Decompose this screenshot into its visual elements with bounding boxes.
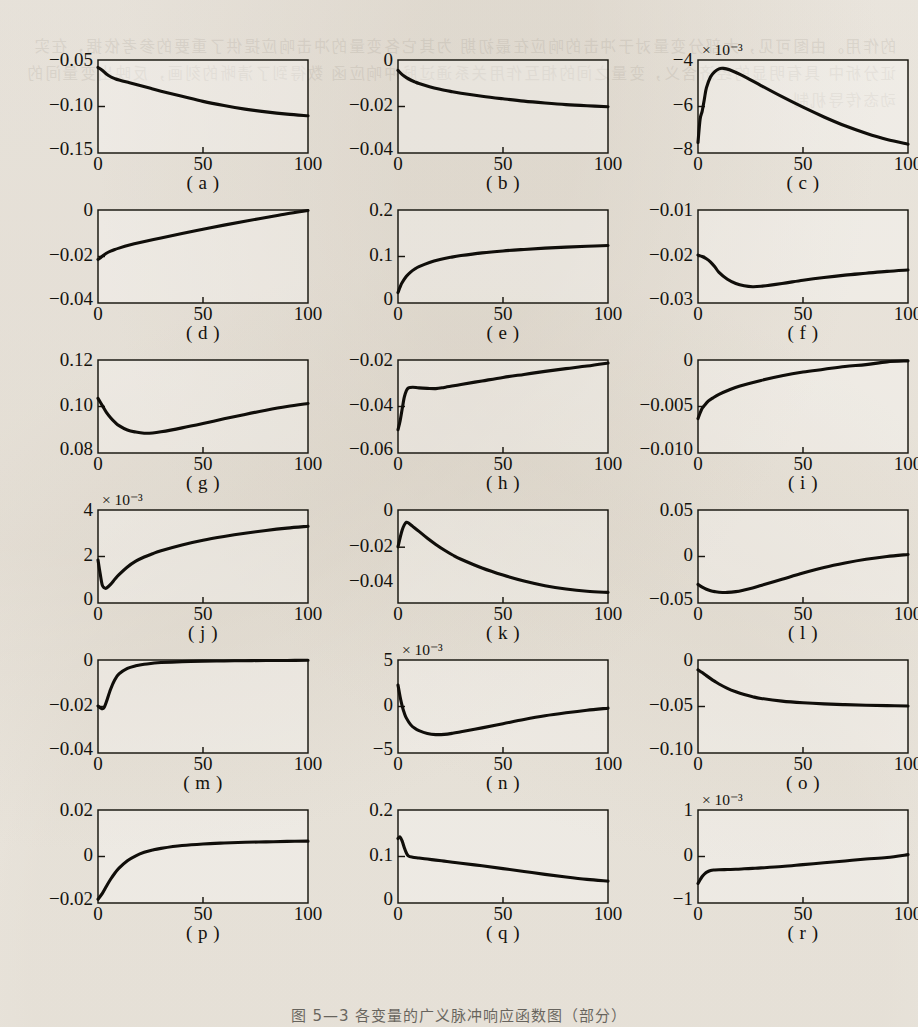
x-tick-label: 100 xyxy=(894,153,918,174)
x-tick-label: 100 xyxy=(594,603,623,624)
y-tick-label: −0.15 xyxy=(49,138,93,159)
y-tick-label: −0.04 xyxy=(49,738,93,759)
chart-panel-e: 0.20.10050100( e ) xyxy=(340,192,618,342)
axes-frame xyxy=(98,660,308,753)
x-tick-label: 0 xyxy=(693,603,703,624)
x-tick-label: 50 xyxy=(794,453,813,474)
chart-svg-g: 0.120.100.08050100( g ) xyxy=(40,342,318,492)
axes-frame xyxy=(398,360,608,453)
x-tick-label: 100 xyxy=(894,303,918,324)
x-tick-label: 0 xyxy=(93,603,103,624)
axes-frame xyxy=(698,360,908,453)
y-tick-label: −6 xyxy=(673,94,693,115)
chart-panel-a: −0.05−0.10−0.15050100( a ) xyxy=(40,42,318,192)
x-tick-label: 100 xyxy=(894,903,918,924)
panel-caption-n: ( n ) xyxy=(486,772,520,794)
x-tick-label: 50 xyxy=(494,453,513,474)
x-tick-label: 0 xyxy=(393,753,403,774)
axes-frame xyxy=(98,810,308,903)
chart-panel-j: × 10⁻³420050100( j ) xyxy=(40,492,318,642)
y-tick-label: 0 xyxy=(684,544,694,565)
axes-frame xyxy=(98,360,308,453)
chart-panel-r: × 10⁻³10−1050100( r ) xyxy=(640,792,918,942)
y-tick-label: −0.04 xyxy=(349,394,393,415)
x-tick-label: 100 xyxy=(294,303,323,324)
y-tick-label: −0.02 xyxy=(349,535,393,556)
x-tick-label: 0 xyxy=(93,303,103,324)
x-tick-label: 0 xyxy=(693,903,703,924)
y-tick-label: 1 xyxy=(684,799,694,820)
y-tick-label: −0.02 xyxy=(49,888,93,909)
chart-svg-h: −0.02−0.04−0.06050100( h ) xyxy=(340,342,618,492)
y-tick-label: −0.02 xyxy=(49,244,93,265)
y-tick-label: 0.05 xyxy=(660,499,693,520)
x-tick-label: 50 xyxy=(194,303,213,324)
y-tick-label: −0.03 xyxy=(649,288,693,309)
x-tick-label: 100 xyxy=(294,453,323,474)
y-tick-label: −0.06 xyxy=(349,438,393,459)
y-tick-label: 0 xyxy=(684,349,694,370)
chart-svg-f: −0.01−0.02−0.03050100( f ) xyxy=(640,192,918,342)
panel-caption-l: ( l ) xyxy=(788,622,818,644)
y-tick-label: 0 xyxy=(384,288,394,309)
x-tick-label: 100 xyxy=(594,753,623,774)
x-tick-label: 50 xyxy=(194,603,213,624)
x-tick-label: 50 xyxy=(794,603,813,624)
chart-svg-q: 0.20.10050100( q ) xyxy=(340,792,618,942)
axes-frame xyxy=(98,60,308,153)
chart-panel-q: 0.20.10050100( q ) xyxy=(340,792,618,942)
panel-caption-r: ( r ) xyxy=(788,922,819,944)
panel-caption-p: ( p ) xyxy=(186,922,220,944)
x-tick-label: 0 xyxy=(393,603,403,624)
y-tick-label: 0 xyxy=(84,199,94,220)
chart-panel-l: 0.050−0.05050100( l ) xyxy=(640,492,918,642)
x-tick-label: 100 xyxy=(294,903,323,924)
chart-panel-i: 0−0.005−0.010050100( i ) xyxy=(640,342,918,492)
x-tick-label: 50 xyxy=(494,303,513,324)
chart-svg-j: × 10⁻³420050100( j ) xyxy=(40,492,318,642)
y-tick-label: 0.1 xyxy=(369,844,393,865)
y-tick-label: −0.010 xyxy=(640,438,693,459)
x-tick-label: 100 xyxy=(294,753,323,774)
y-tick-label: −1 xyxy=(673,888,693,909)
x-tick-label: 100 xyxy=(894,753,918,774)
panel-caption-i: ( i ) xyxy=(788,472,818,494)
x-tick-label: 50 xyxy=(494,903,513,924)
panel-caption-b: ( b ) xyxy=(486,172,520,194)
axes-frame xyxy=(698,210,908,303)
y-tick-label: 0.2 xyxy=(369,799,393,820)
axes-frame xyxy=(398,660,608,753)
figure-caption: 图 5—3 各变量的广义脉冲响应函数图（部分） xyxy=(0,1004,918,1025)
chart-svg-b: 0−0.02−0.04050100( b ) xyxy=(340,42,618,192)
x-tick-label: 0 xyxy=(693,153,703,174)
panel-caption-q: ( q ) xyxy=(486,922,520,944)
y-tick-label: −8 xyxy=(673,138,693,159)
y-tick-label: 2 xyxy=(84,544,94,565)
y-tick-label: −4 xyxy=(673,49,694,70)
panel-caption-o: ( o ) xyxy=(786,772,820,794)
y-tick-label: −0.01 xyxy=(649,199,693,220)
x-tick-label: 50 xyxy=(794,153,813,174)
x-tick-label: 0 xyxy=(93,153,103,174)
y-tick-label: 0 xyxy=(684,649,694,670)
x-tick-label: 50 xyxy=(794,903,813,924)
y-tick-label: 0 xyxy=(684,844,694,865)
chart-panel-d: 0−0.02−0.04050100( d ) xyxy=(40,192,318,342)
axes-frame xyxy=(398,210,608,303)
y-tick-label: 0.10 xyxy=(60,394,93,415)
chart-svg-o: 0−0.05−0.10050100( o ) xyxy=(640,642,918,792)
x-tick-label: 0 xyxy=(393,903,403,924)
x-tick-label: 50 xyxy=(794,753,813,774)
y-tick-label: 0 xyxy=(384,499,394,520)
x-tick-label: 50 xyxy=(494,753,513,774)
x-tick-label: 0 xyxy=(93,453,103,474)
y-tick-label: 0 xyxy=(384,888,394,909)
x-tick-label: 0 xyxy=(393,453,403,474)
chart-svg-l: 0.050−0.05050100( l ) xyxy=(640,492,918,642)
panel-caption-d: ( d ) xyxy=(186,322,220,344)
panel-caption-j: ( j ) xyxy=(188,622,218,644)
x-tick-label: 50 xyxy=(194,153,213,174)
y-tick-label: −0.05 xyxy=(649,588,693,609)
panel-caption-m: ( m ) xyxy=(183,772,222,794)
chart-svg-i: 0−0.005−0.010050100( i ) xyxy=(640,342,918,492)
